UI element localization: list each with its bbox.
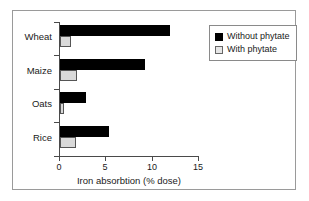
x-axis-title: Iron absorbtion (% dose) (59, 175, 199, 186)
x-axis-tick-label: 15 (193, 162, 203, 173)
x-axis-tick (59, 157, 60, 161)
x-axis-tick-label: 10 (147, 162, 157, 173)
category-label-oats: Oats (32, 98, 52, 109)
legend-swatch-gray-square-icon (215, 46, 223, 54)
legend-item-without-phytate: Without phytate (215, 30, 290, 43)
category-label-wheat: Wheat (25, 31, 52, 42)
legend-item-with-phytate: With phytate (215, 43, 290, 56)
y-axis-tick (54, 122, 59, 123)
legend-label-with-phytate: With phytate (227, 44, 277, 55)
x-axis-tick (152, 157, 153, 161)
category-label-maize: Maize (27, 65, 52, 76)
legend-swatch-black-square-icon (215, 33, 223, 41)
x-axis-tick-label: 0 (56, 162, 61, 173)
x-axis-tick (198, 157, 199, 161)
bar-rice-without-phytate (60, 126, 109, 137)
bar-rice-with-phytate (60, 137, 76, 148)
y-axis-tick (54, 55, 59, 56)
bar-maize-with-phytate (60, 70, 77, 81)
y-axis-tick (54, 22, 59, 23)
x-axis-tick-label: 5 (102, 162, 107, 173)
category-label-rice: Rice (33, 132, 52, 143)
bar-maize-without-phytate (60, 59, 145, 70)
bar-oats-without-phytate (60, 92, 86, 103)
bar-wheat-with-phytate (60, 36, 71, 47)
x-axis-tick (105, 157, 106, 161)
x-axis-line (59, 156, 199, 157)
figure-frame: Wheat Maize Oats Rice 0 5 10 15 Iron abs… (12, 10, 296, 190)
y-axis-tick (54, 89, 59, 90)
chart-legend: Without phytate With phytate (209, 25, 297, 61)
legend-label-without-phytate: Without phytate (227, 31, 290, 42)
bar-oats-with-phytate (60, 103, 64, 114)
plot-area: Wheat Maize Oats Rice 0 5 10 15 Iron abs… (59, 22, 199, 156)
bar-wheat-without-phytate (60, 25, 170, 36)
